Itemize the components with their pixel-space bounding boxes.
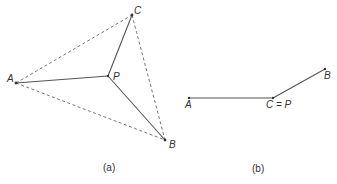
- figure-b: A C = P B (b): [184, 68, 331, 174]
- figure-a: A C P B (a): [6, 5, 176, 173]
- solid-edge-a-p: [16, 76, 108, 83]
- point-a: [15, 82, 18, 85]
- label-c: C: [134, 5, 142, 16]
- point-c: [131, 14, 134, 17]
- label-b-b: B: [324, 70, 331, 81]
- diagram-canvas: A C P B (a) A C = P B (b): [0, 0, 337, 184]
- label-p: P: [113, 71, 120, 82]
- dashed-edge-a-b: [16, 83, 165, 140]
- point-b: [164, 139, 167, 142]
- point-p: [107, 75, 109, 77]
- solid-edge-c-p: [108, 15, 132, 76]
- label-a: A: [6, 73, 14, 84]
- solid-edge-cp-b: [273, 69, 325, 98]
- label-a-b: A: [184, 99, 192, 110]
- caption-b: (b): [252, 163, 264, 174]
- label-c-equals-p: C = P: [266, 99, 292, 110]
- caption-a: (a): [103, 162, 115, 173]
- label-b: B: [169, 139, 176, 150]
